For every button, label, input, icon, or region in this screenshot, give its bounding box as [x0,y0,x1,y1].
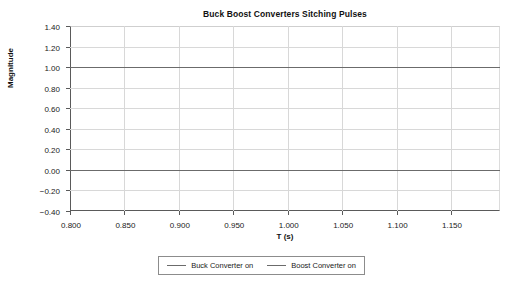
x-tick: 0.850 [124,211,125,215]
x-tick-label: 1.100 [388,221,408,230]
y-tick-label: 0.20 [44,146,60,155]
chart-legend: Buck Converter onBoost Converter on [158,256,365,275]
y-tick-label: 0.80 [44,84,60,93]
x-tick-label: 1.000 [279,221,299,230]
y-tick-label: 0.00 [44,166,60,175]
gridline-vertical [342,26,343,211]
x-tick: 0.950 [233,211,234,215]
legend-entry-boost[interactable]: Boost Converter on [267,261,356,270]
series-line-buck [70,67,500,68]
y-tick-label: −0.40 [40,208,60,217]
legend-line-icon [167,265,186,266]
x-tick-label: 0.950 [224,221,244,230]
y-tick: −0.20 [66,190,70,191]
gridline-horizontal [70,149,500,150]
x-tick: 1.100 [397,211,398,215]
gridline-vertical [288,26,289,211]
y-tick-label: 1.20 [44,43,60,52]
legend-entry-buck[interactable]: Buck Converter on [167,261,253,270]
y-tick: 1.40 [66,26,70,27]
gridline-horizontal [70,129,500,130]
gridline-horizontal [70,108,500,109]
gridline-horizontal [70,47,500,48]
y-tick-label: 0.40 [44,125,60,134]
gridline-horizontal [70,88,500,89]
x-tick: 1.000 [288,211,289,215]
plot-frame [70,26,500,211]
x-tick: 1.150 [451,211,452,215]
gridline-vertical [397,26,398,211]
legend-label: Buck Converter on [191,261,253,270]
chart-figure: Buck Boost Converters Sitching Pulses Ma… [0,0,523,290]
x-tick-label: 0.850 [115,221,135,230]
x-tick-label: 1.150 [442,221,462,230]
x-tick-label: 0.800 [61,221,81,230]
gridline-horizontal [70,190,500,191]
y-axis-title: Magnitude [6,48,15,88]
x-axis-title: T (s) [70,232,500,241]
plot-area: 1.401.201.000.800.600.400.200.00−0.20−0.… [70,26,500,211]
x-tick: 0.800 [70,211,71,215]
legend-label: Boost Converter on [291,261,356,270]
y-tick: 1.20 [66,47,70,48]
y-tick: 0.40 [66,129,70,130]
chart-title: Buck Boost Converters Sitching Pulses [70,9,500,19]
x-tick-label: 1.050 [333,221,353,230]
y-tick: 0.60 [66,108,70,109]
y-tick: 0.20 [66,149,70,150]
y-tick-label: 1.40 [44,23,60,32]
gridline-vertical [233,26,234,211]
gridline-vertical [451,26,452,211]
y-tick-label: 1.00 [44,64,60,73]
series-line-boost [70,170,500,171]
y-tick-label: −0.20 [40,187,60,196]
x-tick: 0.900 [179,211,180,215]
y-tick: 0.80 [66,88,70,89]
legend-line-icon [267,265,286,266]
gridline-vertical [179,26,180,211]
x-tick: 1.050 [342,211,343,215]
x-tick-label: 0.900 [170,221,190,230]
gridline-vertical [124,26,125,211]
y-tick-label: 0.60 [44,105,60,114]
